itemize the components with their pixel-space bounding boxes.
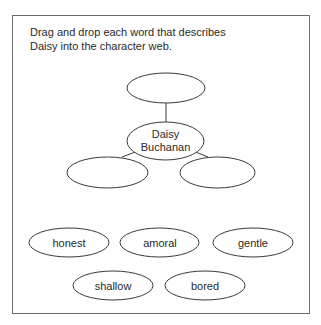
character-web-diagram <box>0 0 321 325</box>
word-chip-label: bored <box>191 280 219 292</box>
word-chip-label: shallow <box>95 280 132 292</box>
word-chip-amoral[interactable]: amoral <box>120 228 200 258</box>
word-chip-bored[interactable]: bored <box>165 271 245 301</box>
word-chip-shallow[interactable]: shallow <box>73 271 153 301</box>
drop-slot-top[interactable] <box>127 73 205 103</box>
center-node-shape <box>127 122 204 160</box>
drop-slot-bottom-left[interactable] <box>67 157 148 188</box>
word-chip-honest[interactable]: honest <box>29 228 109 258</box>
word-chip-gentle[interactable]: gentle <box>213 228 293 258</box>
word-chip-label: gentle <box>238 237 268 249</box>
word-chip-label: honest <box>52 237 85 249</box>
drop-slot-bottom-right[interactable] <box>180 157 255 188</box>
word-chip-label: amoral <box>143 237 177 249</box>
